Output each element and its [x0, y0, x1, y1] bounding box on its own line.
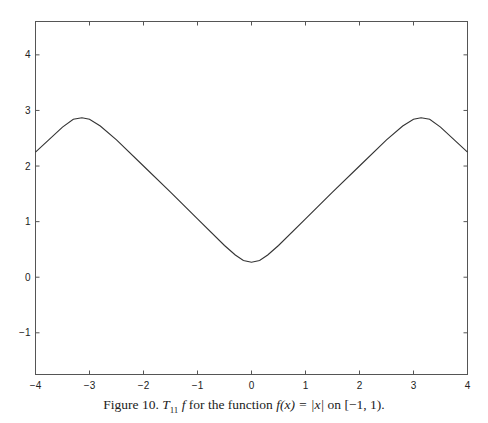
x-tick-label: 3	[411, 380, 417, 391]
figure-caption: Figure 10. T11 f for the function f(x) =…	[0, 397, 488, 415]
x-tick-label: 1	[303, 380, 309, 391]
x-axis-ticks: −4−3−2−101234	[30, 22, 471, 391]
figure-plot: −4−3−2−101234 −101234	[0, 0, 488, 395]
y-tick-label: −1	[19, 327, 31, 338]
plot-frame	[36, 22, 468, 375]
caption-suffix: on [−1, 1).	[328, 397, 385, 412]
caption-middle: for the function	[189, 397, 273, 412]
x-tick-label: 2	[357, 380, 363, 391]
x-tick-label: −2	[138, 380, 150, 391]
caption-operator: T	[162, 397, 170, 412]
y-tick-label: 2	[25, 161, 31, 172]
y-tick-label: 3	[25, 105, 31, 116]
x-tick-label: 4	[465, 380, 471, 391]
y-tick-label: 4	[25, 49, 31, 60]
caption-prefix: Figure 10.	[103, 397, 159, 412]
caption-subscript: 11	[170, 405, 179, 415]
caption-formula: f(x) = |x|	[276, 397, 324, 412]
x-tick-label: −1	[192, 380, 204, 391]
y-tick-label: 1	[25, 216, 31, 227]
x-tick-label: −3	[84, 380, 96, 391]
y-tick-label: 0	[25, 272, 31, 283]
x-tick-label: −4	[30, 380, 42, 391]
caption-func: f	[182, 397, 186, 412]
y-axis-ticks: −101234	[19, 49, 467, 338]
x-tick-label: 0	[249, 380, 255, 391]
data-line-t11f	[36, 118, 468, 263]
